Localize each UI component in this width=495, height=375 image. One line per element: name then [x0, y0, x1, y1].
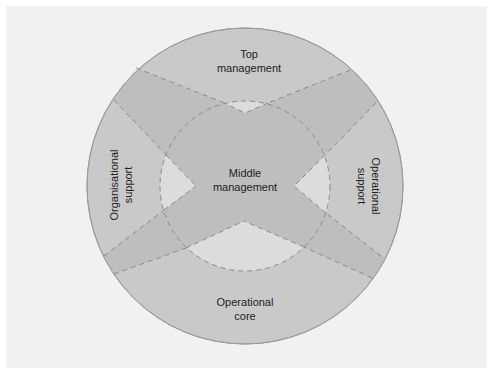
label-middle-management: Middle management: [213, 166, 277, 194]
label-line: Top: [217, 47, 281, 61]
label-line: Operational: [369, 158, 383, 215]
label-line: management: [217, 61, 281, 75]
label-line: core: [217, 309, 274, 323]
label-top-management: Top management: [217, 47, 281, 75]
label-operational-core: Operational core: [217, 295, 274, 323]
label-line: management: [213, 180, 277, 194]
label-operational-support: Operational support: [355, 158, 383, 215]
label-line: support: [355, 158, 369, 215]
label-line: support: [121, 150, 135, 221]
label-organisational-support: Organisational support: [107, 150, 135, 221]
label-line: Organisational: [107, 150, 121, 221]
label-line: Operational: [217, 295, 274, 309]
label-line: Middle: [213, 166, 277, 180]
